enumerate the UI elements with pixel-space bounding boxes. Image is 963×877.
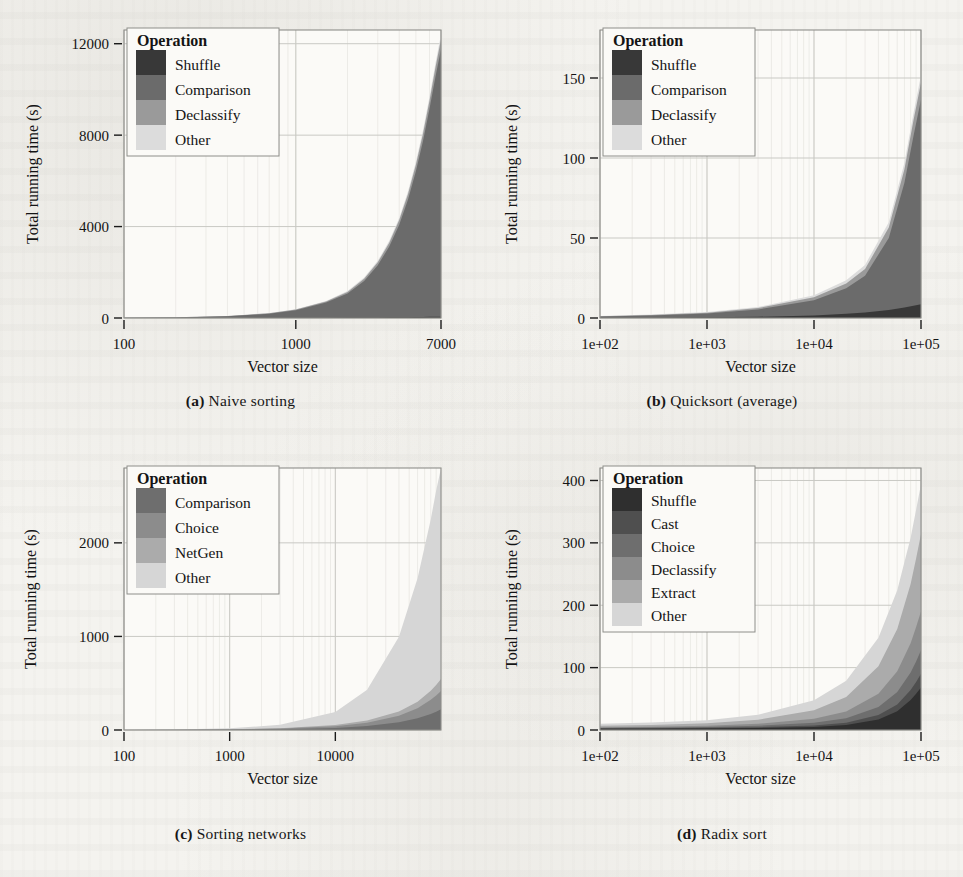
- chart-b: 1e+021e+031e+041e+05050100150Vector size…: [481, 0, 963, 440]
- caption-a-text: Naive sorting: [209, 392, 296, 409]
- caption-d: (d) Radix sort: [481, 825, 963, 843]
- x-tick-label: 1e+04: [795, 748, 833, 764]
- caption-b: (b) Quicksort (average): [481, 392, 963, 410]
- panel-c: 100100010000010002000Vector sizeTotal ru…: [0, 440, 481, 877]
- x-tick-label: 10000: [317, 748, 355, 764]
- y-axis-title: Total running time (s): [503, 104, 521, 244]
- legend-label-comparison: Comparison: [651, 81, 727, 98]
- x-tick-label: 1e+03: [688, 748, 726, 764]
- legend-swatch-comparison: [136, 75, 166, 100]
- legend-swatch-other: [612, 603, 642, 626]
- y-tick-label: 150: [563, 71, 586, 87]
- y-tick-label: 0: [578, 311, 586, 327]
- legend-label-comparison: Comparison: [175, 494, 251, 511]
- y-tick-label: 2000: [79, 535, 109, 551]
- x-tick-label: 1e+05: [902, 748, 940, 764]
- legend-swatch-declassify: [136, 100, 166, 125]
- legend[interactable]: OperationShuffleComparisonDeclassifyOthe…: [603, 28, 755, 156]
- legend-title: Operation: [137, 32, 207, 50]
- legend-label-other: Other: [651, 607, 687, 624]
- legend-swatch-shuffle: [136, 50, 166, 75]
- x-axis-title: Vector size: [725, 770, 796, 787]
- x-axis-title: Vector size: [725, 358, 796, 375]
- x-axis-title: Vector size: [247, 358, 318, 375]
- legend-swatch-other: [612, 125, 642, 150]
- chart-c: 100100010000010002000Vector sizeTotal ru…: [0, 440, 481, 877]
- chart-a: 1001000700004000800012000Vector sizeTota…: [0, 0, 481, 440]
- y-tick-label: 1000: [79, 629, 109, 645]
- legend-swatch-comparison: [136, 488, 166, 513]
- legend-label-choice: Choice: [651, 538, 695, 555]
- legend-swatch-declassify: [612, 557, 642, 580]
- x-tick-label: 1e+04: [795, 336, 833, 352]
- legend-swatch-extract: [612, 580, 642, 603]
- y-axis-title: Total running time (s): [24, 104, 42, 244]
- legend-label-other: Other: [175, 131, 211, 148]
- panel-d: 1e+021e+031e+041e+050100200300400Vector …: [481, 440, 963, 877]
- legend-label-other: Other: [651, 131, 687, 148]
- legend[interactable]: OperationComparisonChoiceNetGenOther: [127, 466, 279, 594]
- legend-label-netgen: NetGen: [175, 544, 223, 561]
- chart-c-svg: 100100010000010002000Vector sizeTotal ru…: [0, 440, 481, 835]
- x-tick-label: 1000: [281, 336, 311, 352]
- caption-d-text: Radix sort: [701, 825, 767, 842]
- caption-a: (a) Naive sorting: [0, 392, 481, 410]
- legend[interactable]: OperationShuffleComparisonDeclassifyOthe…: [127, 28, 279, 156]
- legend-swatch-netgen: [136, 538, 166, 563]
- y-tick-label: 100: [563, 151, 586, 167]
- y-axis-title: Total running time (s): [22, 529, 40, 669]
- caption-c-marker: (c): [175, 825, 193, 842]
- x-tick-label: 100: [113, 336, 136, 352]
- x-tick-label: 100: [113, 748, 136, 764]
- caption-d-marker: (d): [677, 825, 697, 842]
- legend-label-declassify: Declassify: [651, 106, 717, 123]
- legend-label-shuffle: Shuffle: [651, 56, 696, 73]
- caption-c: (c) Sorting networks: [0, 825, 481, 843]
- chart-d-svg: 1e+021e+031e+041e+050100200300400Vector …: [481, 440, 963, 835]
- legend-swatch-other: [136, 125, 166, 150]
- legend-label-shuffle: Shuffle: [651, 492, 696, 509]
- legend-title: Operation: [613, 32, 683, 50]
- caption-b-text: Quicksort (average): [670, 392, 797, 409]
- figure-grid: 1001000700004000800012000Vector sizeTota…: [0, 0, 963, 877]
- legend-swatch-shuffle: [612, 50, 642, 75]
- caption-b-marker: (b): [647, 392, 667, 409]
- y-tick-label: 100: [563, 660, 586, 676]
- caption-a-marker: (a): [186, 392, 205, 409]
- legend-label-choice: Choice: [175, 519, 219, 536]
- x-axis-title: Vector size: [247, 770, 318, 787]
- panel-a: 1001000700004000800012000Vector sizeTota…: [0, 0, 481, 440]
- y-tick-label: 50: [570, 231, 585, 247]
- legend-title: Operation: [137, 470, 207, 488]
- legend[interactable]: OperationShuffleCastChoiceDeclassifyExtr…: [603, 466, 755, 632]
- x-tick-label: 1000: [215, 748, 245, 764]
- chart-d: 1e+021e+031e+041e+050100200300400Vector …: [481, 440, 963, 877]
- legend-label-declassify: Declassify: [175, 106, 241, 123]
- legend-swatch-other: [136, 563, 166, 588]
- chart-b-svg: 1e+021e+031e+041e+05050100150Vector size…: [481, 0, 963, 400]
- x-tick-label: 1e+03: [688, 336, 726, 352]
- legend-swatch-cast: [612, 511, 642, 534]
- legend-label-other: Other: [175, 569, 211, 586]
- legend-swatch-declassify: [612, 100, 642, 125]
- legend-swatch-comparison: [612, 75, 642, 100]
- legend-label-declassify: Declassify: [651, 561, 717, 578]
- y-axis-title: Total running time (s): [503, 529, 521, 669]
- legend-label-shuffle: Shuffle: [175, 56, 220, 73]
- legend-swatch-choice: [136, 513, 166, 538]
- caption-c-text: Sorting networks: [197, 825, 307, 842]
- y-tick-label: 300: [563, 535, 586, 551]
- legend-title: Operation: [613, 470, 683, 488]
- legend-label-cast: Cast: [651, 515, 679, 532]
- y-tick-label: 200: [563, 598, 586, 614]
- x-tick-label: 1e+02: [581, 748, 619, 764]
- legend-label-comparison: Comparison: [175, 81, 251, 98]
- chart-a-svg: 1001000700004000800012000Vector sizeTota…: [0, 0, 481, 400]
- y-tick-label: 8000: [79, 128, 109, 144]
- x-tick-label: 1e+05: [902, 336, 940, 352]
- panel-b: 1e+021e+031e+041e+05050100150Vector size…: [481, 0, 963, 440]
- y-tick-label: 0: [102, 723, 110, 739]
- x-tick-label: 7000: [426, 336, 456, 352]
- x-tick-label: 1e+02: [581, 336, 619, 352]
- y-tick-label: 0: [578, 723, 586, 739]
